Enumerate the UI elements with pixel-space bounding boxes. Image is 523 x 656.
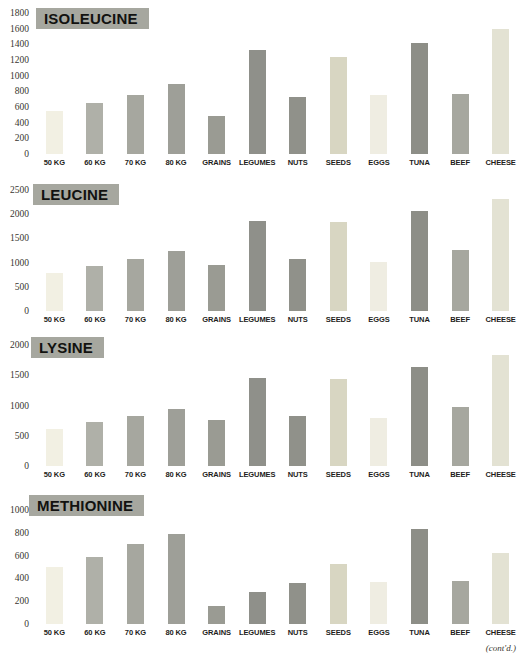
y-axis: 020040060080010001200140016001800 [0, 0, 33, 154]
bar-column [359, 582, 400, 624]
category-label: LEGUMES [237, 158, 278, 167]
bar-grains [208, 420, 225, 466]
bar-column [196, 265, 237, 311]
category-label: 60 KG [75, 628, 116, 637]
bar-column [318, 57, 359, 154]
bar-60-kg [86, 103, 103, 154]
y-tick-label: 200 [15, 596, 29, 606]
y-tick-label: 1000 [10, 258, 29, 268]
category-label: CHEESE [480, 470, 521, 479]
bar-beef [452, 94, 469, 154]
y-tick-label: 1400 [10, 39, 29, 49]
bar-60-kg [86, 266, 103, 311]
chart-title-badge: LEUCINE [33, 184, 119, 205]
y-tick-label: 0 [24, 461, 29, 471]
y-tick-label: 2000 [10, 340, 29, 350]
category-label: 50 KG [34, 158, 75, 167]
bar-column [115, 95, 156, 154]
y-axis: 0500100015002000 [0, 330, 33, 466]
bars-area [34, 345, 521, 466]
bar-cheese [492, 355, 509, 466]
category-label: NUTS [277, 315, 318, 324]
bar-column [156, 251, 197, 311]
category-label: 70 KG [115, 628, 156, 637]
bar-legumes [249, 50, 266, 154]
category-label: TUNA [399, 470, 440, 479]
category-label: 50 KG [34, 470, 75, 479]
bar-column [237, 592, 278, 624]
y-tick-label: 200 [15, 133, 29, 143]
y-tick-label: 500 [15, 431, 29, 441]
category-label: NUTS [277, 470, 318, 479]
category-label: 80 KG [156, 628, 197, 637]
category-labels-row: 50 KG60 KG70 KG80 KGGRAINSLEGUMESNUTSSEE… [34, 154, 521, 170]
bar-column [156, 84, 197, 155]
category-label: GRAINS [196, 628, 237, 637]
chart-title: LEUCINE [41, 186, 108, 203]
category-label: LEGUMES [237, 315, 278, 324]
bars-area [34, 510, 521, 624]
chart-title-badge: LYSINE [31, 337, 104, 358]
bar-beef [452, 581, 469, 624]
bar-seeds [330, 379, 347, 466]
category-label: 50 KG [34, 315, 75, 324]
category-label: CHEESE [480, 315, 521, 324]
bar-column [277, 416, 318, 466]
y-tick-label: 1000 [10, 401, 29, 411]
y-tick-label: 400 [15, 573, 29, 583]
category-label: 80 KG [156, 315, 197, 324]
y-tick-label: 1500 [10, 370, 29, 380]
category-label: 60 KG [75, 315, 116, 324]
bar-column [440, 581, 481, 624]
chart-title-badge: ISOLEUCINE [36, 8, 149, 29]
category-label: BEEF [440, 158, 481, 167]
chart-panel-methionine: METHIONINE0200400600800100050 KG60 KG70 … [0, 495, 523, 656]
category-label: 60 KG [75, 158, 116, 167]
bar-column [156, 534, 197, 624]
bar-column [359, 262, 400, 311]
bar-seeds [330, 564, 347, 624]
category-label: NUTS [277, 158, 318, 167]
bar-nuts [289, 583, 306, 624]
bar-beef [452, 250, 469, 311]
category-label: LEGUMES [237, 470, 278, 479]
category-label: GRAINS [196, 470, 237, 479]
bar-eggs [370, 582, 387, 624]
bar-seeds [330, 57, 347, 154]
bar-column [156, 409, 197, 466]
bar-50-kg [46, 429, 63, 466]
bar-column [480, 29, 521, 154]
bar-column [440, 94, 481, 154]
category-label: TUNA [399, 315, 440, 324]
chart-title: ISOLEUCINE [44, 10, 138, 27]
category-label: BEEF [440, 470, 481, 479]
bar-eggs [370, 262, 387, 311]
bar-column [318, 564, 359, 624]
chart-title: LYSINE [39, 339, 93, 356]
category-label: CHEESE [480, 158, 521, 167]
bar-eggs [370, 418, 387, 466]
bar-column [318, 379, 359, 466]
bar-column [359, 95, 400, 154]
category-label: CHEESE [480, 628, 521, 637]
bar-column [115, 416, 156, 466]
bar-seeds [330, 222, 347, 311]
y-tick-label: 1800 [10, 8, 29, 18]
bar-column [196, 116, 237, 154]
chart-panel-isoleucine: ISOLEUCINE020040060080010001200140016001… [0, 0, 523, 170]
bar-eggs [370, 95, 387, 154]
bar-column [115, 544, 156, 624]
y-tick-label: 800 [15, 86, 29, 96]
category-label: BEEF [440, 315, 481, 324]
bar-column [277, 583, 318, 624]
y-tick-label: 600 [15, 551, 29, 561]
y-tick-label: 2000 [10, 209, 29, 219]
bar-column [34, 273, 75, 311]
bar-50-kg [46, 111, 63, 154]
amino-acid-charts: ISOLEUCINE020040060080010001200140016001… [0, 0, 523, 656]
bar-legumes [249, 592, 266, 624]
bar-column [399, 211, 440, 311]
category-label: LEGUMES [237, 628, 278, 637]
bar-column [359, 418, 400, 466]
bar-70-kg [127, 259, 144, 311]
